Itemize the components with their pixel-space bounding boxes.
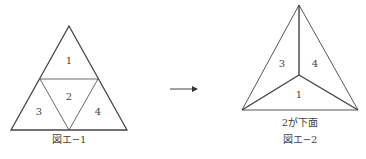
figure1-outer-triangle (11, 26, 127, 130)
figure1-inner-triangle (40, 79, 98, 130)
figure1-net (11, 26, 127, 130)
figure2-face-1-label: 1 (296, 90, 302, 100)
figure2-edge-left (242, 75, 299, 110)
figure1-face-4-label: 4 (95, 107, 101, 117)
figure2-face-4-label: 4 (312, 59, 318, 69)
figure1-face-1-label: 1 (66, 56, 72, 66)
figure1-caption: 図エ−1 (52, 135, 87, 145)
figure1-face-2-label: 2 (66, 92, 72, 102)
figure2-edge-right (299, 75, 358, 110)
figure1-face-3-label: 3 (36, 107, 42, 117)
figure2-face-3-label: 3 (279, 59, 285, 69)
figure2-caption: 図エ−2 (283, 135, 318, 145)
arrow-right-icon (170, 86, 198, 92)
figure2-note: 2が下面 (282, 118, 318, 128)
